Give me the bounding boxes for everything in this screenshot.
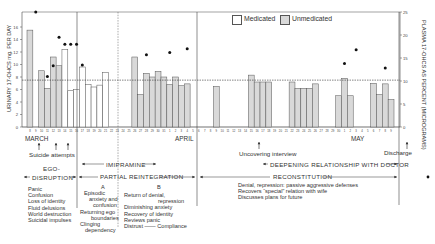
bar-unmedicated <box>248 75 254 127</box>
phase-b-label: B <box>157 184 161 190</box>
svg-text:12: 12 <box>13 50 18 55</box>
svg-text:2: 2 <box>350 129 352 133</box>
svg-text:7: 7 <box>204 129 206 133</box>
svg-text:10: 10 <box>13 62 18 67</box>
plasma-point <box>384 67 387 70</box>
bar-unmedicated <box>149 77 155 127</box>
imipramine-label: IMIPRAMINE <box>106 162 146 169</box>
svg-text:15: 15 <box>250 129 254 133</box>
bar-unmedicated <box>155 71 161 127</box>
bar-unmedicated <box>312 84 318 127</box>
bar-unmedicated <box>307 88 313 127</box>
plasma-point <box>343 62 346 65</box>
svg-text:12: 12 <box>232 129 236 133</box>
plasma-point <box>34 11 37 14</box>
bar-unmedicated <box>27 30 33 127</box>
svg-text:5: 5 <box>192 129 194 133</box>
svg-text:25: 25 <box>403 10 408 15</box>
bar-unmedicated <box>213 86 219 127</box>
svg-text:26: 26 <box>314 129 318 133</box>
svg-text:8: 8 <box>16 75 19 80</box>
svg-text:2: 2 <box>16 112 19 117</box>
month-may: MAY <box>351 136 364 143</box>
svg-text:19: 19 <box>273 129 277 133</box>
bar-unmedicated <box>388 100 394 128</box>
svg-text:8: 8 <box>210 129 212 133</box>
bar-unmedicated <box>161 77 167 127</box>
ego-disruption-symptoms: Panic Confusion Loss of identity Fluid d… <box>28 186 71 223</box>
bar-unmedicated <box>56 66 62 127</box>
svg-text:21: 21 <box>285 129 289 133</box>
bar-unmedicated <box>184 84 190 127</box>
plasma-point <box>52 64 55 67</box>
svg-text:23: 23 <box>116 129 120 133</box>
ego-disruption-label-1: EGO- <box>43 166 60 173</box>
list-item: Suicidal impulses <box>28 217 71 223</box>
bar-unmedicated <box>167 85 173 128</box>
legend-unmedicated-label: Unmedicated <box>292 16 332 23</box>
legend-unmedicated-swatch <box>280 15 290 25</box>
bar-medicated <box>91 87 97 127</box>
plasma-point <box>145 53 148 56</box>
plasma-point <box>186 47 189 50</box>
svg-text:23: 23 <box>296 129 300 133</box>
bar-unmedicated <box>173 77 179 127</box>
svg-text:11: 11 <box>46 129 49 133</box>
svg-text:5: 5 <box>403 102 406 107</box>
svg-text:24: 24 <box>302 129 306 133</box>
svg-text:0: 0 <box>403 125 406 130</box>
svg-text:10: 10 <box>40 129 44 133</box>
bar-unmedicated <box>144 73 150 127</box>
bar-medicated <box>79 67 85 127</box>
svg-text:22: 22 <box>290 129 294 133</box>
bar-unmedicated <box>301 88 307 127</box>
svg-text:20: 20 <box>403 33 408 38</box>
svg-text:6: 6 <box>373 129 375 133</box>
svg-text:22: 22 <box>110 129 114 133</box>
plasma-point <box>63 43 66 46</box>
bar-unmedicated <box>336 96 342 127</box>
svg-text:29: 29 <box>151 129 155 133</box>
svg-text:1: 1 <box>344 129 346 133</box>
svg-text:25: 25 <box>308 129 312 133</box>
svg-text:28: 28 <box>145 129 149 133</box>
bar-unmedicated <box>39 71 45 127</box>
svg-text:29: 29 <box>331 129 335 133</box>
plasma-point <box>81 63 84 66</box>
plasma-point <box>168 51 171 54</box>
svg-text:17: 17 <box>261 129 265 133</box>
svg-text:5: 5 <box>367 129 369 133</box>
svg-text:6: 6 <box>16 87 19 92</box>
discharge-label: Discharge <box>384 150 412 157</box>
bar-medicated <box>103 73 109 127</box>
bar-unmedicated <box>289 82 295 127</box>
left-axis-label: URINARY 17-OHCS mg. PER DAY <box>6 25 12 112</box>
svg-text:15: 15 <box>69 129 73 133</box>
bar-medicated <box>74 90 80 128</box>
svg-text:24: 24 <box>122 129 126 133</box>
svg-text:6: 6 <box>198 129 200 133</box>
bar-unmedicated <box>178 86 184 127</box>
month-march: MARCH <box>25 136 48 143</box>
svg-text:30: 30 <box>337 129 341 133</box>
svg-text:10: 10 <box>221 129 225 133</box>
svg-text:3: 3 <box>355 129 357 133</box>
svg-text:2: 2 <box>175 129 177 133</box>
svg-text:12: 12 <box>52 129 56 133</box>
plasma-point <box>69 43 72 46</box>
svg-text:7: 7 <box>379 129 381 133</box>
bar-unmedicated <box>138 95 144 128</box>
legend-medicated-label: Medicated <box>244 16 275 23</box>
plasma-point <box>355 48 358 51</box>
bar-unmedicated <box>347 96 353 127</box>
svg-text:4: 4 <box>16 100 19 105</box>
svg-text:16: 16 <box>13 25 18 30</box>
bar-unmedicated <box>377 95 383 128</box>
bar-unmedicated <box>132 57 138 127</box>
list-item: Distrust —— Compliance <box>124 223 199 229</box>
plasma-point <box>75 43 78 46</box>
deepening-label: DEEPENING RELATIONSHIP WITH DOCTOR <box>270 162 409 169</box>
right-axis-label: PLASMA 17-OHCS AS PERCENT (MICROGRAMS) <box>421 20 427 150</box>
svg-text:16: 16 <box>256 129 260 133</box>
bar-unmedicated <box>295 88 301 127</box>
